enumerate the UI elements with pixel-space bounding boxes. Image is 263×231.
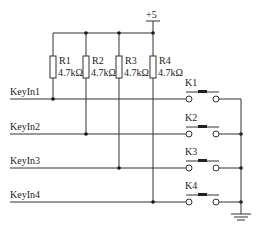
circuit-diagram: +5 R1 4.7kΩ R2 4.7kΩ R3 4.7kΩ R4 4.7kΩ K bbox=[0, 0, 263, 231]
resistor-value: 4.7kΩ bbox=[124, 67, 149, 78]
resistor-value: 4.7kΩ bbox=[91, 67, 116, 78]
key-row-1: KeyIn1 K1 bbox=[10, 77, 241, 102]
resistor-value: 4.7kΩ bbox=[58, 67, 83, 78]
key-row-3: KeyIn3 K3 bbox=[10, 146, 243, 171]
switch-label: K1 bbox=[185, 77, 197, 88]
input-label: KeyIn4 bbox=[10, 189, 40, 200]
input-label: KeyIn2 bbox=[10, 121, 40, 132]
switch-label: K2 bbox=[185, 112, 197, 123]
switch-label: K3 bbox=[185, 146, 197, 157]
key-row-4: KeyIn4 K4 bbox=[10, 180, 243, 205]
resistor-r3: R3 4.7kΩ bbox=[116, 33, 149, 168]
input-label: KeyIn1 bbox=[10, 86, 40, 97]
resistor-name: R3 bbox=[125, 55, 137, 66]
resistor-r1: R1 4.7kΩ bbox=[50, 33, 83, 99]
resistor-name: R2 bbox=[92, 55, 104, 66]
resistor-name: R1 bbox=[59, 55, 71, 66]
input-label: KeyIn3 bbox=[10, 155, 40, 166]
resistor-value: 4.7kΩ bbox=[158, 67, 183, 78]
resistor-name: R4 bbox=[159, 55, 171, 66]
supply-node: +5 bbox=[146, 9, 160, 33]
resistor-r4: R4 4.7kΩ bbox=[150, 33, 183, 202]
resistor-r2: R2 4.7kΩ bbox=[83, 33, 116, 134]
ground-icon bbox=[231, 214, 251, 220]
switch-label: K4 bbox=[185, 180, 197, 191]
key-row-2: KeyIn2 K2 bbox=[10, 112, 243, 137]
supply-label: +5 bbox=[146, 9, 157, 20]
